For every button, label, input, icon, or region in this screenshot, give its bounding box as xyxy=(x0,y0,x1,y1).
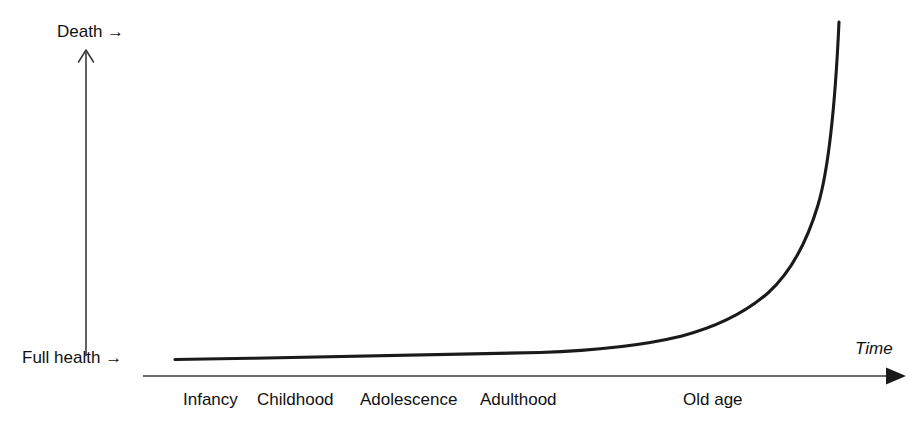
chart-canvas xyxy=(0,0,923,427)
stage-label-adolescence: Adolescence xyxy=(360,391,457,408)
health-decline-curve xyxy=(175,22,839,360)
health-decline-chart: Death → Full health → Time Infancy Child… xyxy=(0,0,923,427)
y-axis-top-label: Death → xyxy=(57,23,124,40)
x-axis-arrowhead-icon xyxy=(886,368,906,385)
stage-label-infancy: Infancy xyxy=(183,391,238,408)
x-axis xyxy=(143,368,906,385)
y-axis-bottom-label: Full health → xyxy=(22,349,122,366)
stage-label-adulthood: Adulthood xyxy=(480,391,557,408)
y-axis xyxy=(79,50,94,356)
stage-label-childhood: Childhood xyxy=(257,391,334,408)
stage-label-old-age: Old age xyxy=(683,391,743,408)
x-axis-label-time: Time xyxy=(855,340,893,357)
